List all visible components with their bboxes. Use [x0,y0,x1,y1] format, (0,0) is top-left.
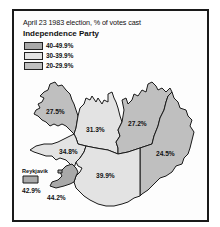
label-northeast: 27.2% [128,120,147,127]
reykjavik-name-label: Reykjavik [22,168,49,174]
iceland-map: 27.5% 31.3% 27.2% 24.5% 34.8% 39.9% 44.2… [0,0,220,227]
label-reykjanes: 44.2% [47,194,66,201]
reykjavik-inset-swatch [23,176,38,183]
label-south: 39.9% [96,172,115,179]
region-reykjavik-marker [58,170,62,173]
region-reykjanes [50,164,78,188]
label-east: 24.5% [156,150,175,157]
label-northwest: 31.3% [86,126,105,133]
label-west: 34.8% [59,148,78,155]
label-reykjavik: 42.9% [22,187,41,194]
label-westfjords: 27.5% [46,108,65,115]
